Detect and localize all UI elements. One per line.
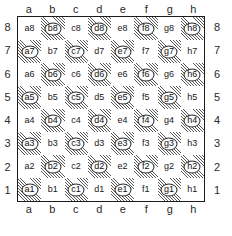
square-label-e5: e5 <box>118 93 128 102</box>
board-square-f4[interactable]: f4 <box>134 109 157 132</box>
square-label-f6: f6 <box>142 70 150 79</box>
board-square-g2[interactable]: g2 <box>158 155 181 178</box>
board-square-b8[interactable]: b8 <box>41 17 64 40</box>
square-label-b2: b2 <box>48 162 58 171</box>
board-square-a6[interactable]: a6 <box>18 63 41 86</box>
board-square-b5[interactable]: b5 <box>41 86 64 109</box>
board-square-e6[interactable]: e6 <box>111 63 134 86</box>
square-label-d3: d3 <box>94 139 104 148</box>
board-square-f8[interactable]: f8 <box>134 17 157 40</box>
board-square-f3[interactable]: f3 <box>134 132 157 155</box>
board-square-h4[interactable]: h4 <box>181 109 204 132</box>
square-label-d4: d4 <box>94 116 104 125</box>
board-square-g4[interactable]: g4 <box>158 109 181 132</box>
board-square-b7[interactable]: b7 <box>41 40 64 63</box>
board-square-f6[interactable]: f6 <box>134 63 157 86</box>
square-label-a6: a6 <box>25 70 35 79</box>
board-square-g3[interactable]: g3 <box>158 132 181 155</box>
caption-fragment <box>18 228 218 234</box>
file-label-top-d: d <box>88 4 112 15</box>
board-square-c5[interactable]: c5 <box>65 86 88 109</box>
board-square-b3[interactable]: b3 <box>41 132 64 155</box>
square-label-g7: g7 <box>164 47 174 56</box>
rank-label-left-4: 4 <box>1 115 17 126</box>
board-square-a2[interactable]: a2 <box>18 155 41 178</box>
board-square-h3[interactable]: h3 <box>181 132 204 155</box>
board-square-b1[interactable]: b1 <box>41 178 64 201</box>
board-square-h1[interactable]: h1 <box>181 178 204 201</box>
board-square-h8[interactable]: h8 <box>181 17 204 40</box>
board-square-c3[interactable]: c3 <box>65 132 88 155</box>
board-square-d3[interactable]: d3 <box>88 132 111 155</box>
board-square-c4[interactable]: c4 <box>65 109 88 132</box>
file-label-bottom-d: d <box>88 204 112 215</box>
board-square-h6[interactable]: h6 <box>181 63 204 86</box>
rank-labels-right: 87654321 <box>205 16 225 202</box>
board-square-e8[interactable]: e8 <box>111 17 134 40</box>
board-square-g8[interactable]: g8 <box>158 17 181 40</box>
board-square-h2[interactable]: h2 <box>181 155 204 178</box>
board-square-g6[interactable]: g6 <box>158 63 181 86</box>
rank-label-left-1: 1 <box>1 185 17 196</box>
board-square-d6[interactable]: d6 <box>88 63 111 86</box>
square-label-f3: f3 <box>142 139 150 148</box>
board-square-e4[interactable]: e4 <box>111 109 134 132</box>
board-square-e2[interactable]: e2 <box>111 155 134 178</box>
board-square-a3[interactable]: a3 <box>18 132 41 155</box>
board-square-a4[interactable]: a4 <box>18 109 41 132</box>
board-square-a8[interactable]: a8 <box>18 17 41 40</box>
board-square-h5[interactable]: h5 <box>181 86 204 109</box>
board-square-a7[interactable]: a7 <box>18 40 41 63</box>
square-label-h1: h1 <box>187 185 197 194</box>
file-label-top-b: b <box>41 4 65 15</box>
board-square-a1[interactable]: a1 <box>18 178 41 201</box>
square-label-d1: d1 <box>94 185 104 194</box>
square-label-d5: d5 <box>94 93 104 102</box>
board-square-b2[interactable]: b2 <box>41 155 64 178</box>
board-square-c8[interactable]: c8 <box>65 17 88 40</box>
square-label-b8: b8 <box>48 24 58 33</box>
board-square-e7[interactable]: e7 <box>111 40 134 63</box>
board-square-d4[interactable]: d4 <box>88 109 111 132</box>
board-square-e5[interactable]: e5 <box>111 86 134 109</box>
board-square-f5[interactable]: f5 <box>134 86 157 109</box>
board-square-e3[interactable]: e3 <box>111 132 134 155</box>
board-square-c6[interactable]: c6 <box>65 63 88 86</box>
board-square-c7[interactable]: c7 <box>65 40 88 63</box>
rank-label-left-7: 7 <box>1 45 17 56</box>
board-square-g7[interactable]: g7 <box>158 40 181 63</box>
board-square-g5[interactable]: g5 <box>158 86 181 109</box>
board-square-d5[interactable]: d5 <box>88 86 111 109</box>
board-square-g1[interactable]: g1 <box>158 178 181 201</box>
rank-label-right-1: 1 <box>205 185 225 196</box>
square-label-c4: c4 <box>71 116 81 125</box>
board-square-d1[interactable]: d1 <box>88 178 111 201</box>
board-square-b6[interactable]: b6 <box>41 63 64 86</box>
square-label-g8: g8 <box>164 24 174 33</box>
file-label-bottom-a: a <box>17 204 41 215</box>
square-label-a7: a7 <box>25 47 35 56</box>
board-square-b4[interactable]: b4 <box>41 109 64 132</box>
board-square-d8[interactable]: d8 <box>88 17 111 40</box>
rank-label-left-6: 6 <box>1 69 17 80</box>
square-label-e6: e6 <box>118 70 128 79</box>
square-label-h6: h6 <box>187 70 197 79</box>
board-square-d7[interactable]: d7 <box>88 40 111 63</box>
board-square-e1[interactable]: e1 <box>111 178 134 201</box>
board-square-f1[interactable]: f1 <box>134 178 157 201</box>
square-label-h4: h4 <box>187 116 197 125</box>
square-label-g3: g3 <box>164 139 174 148</box>
square-label-g6: g6 <box>164 70 174 79</box>
board-square-c1[interactable]: c1 <box>65 178 88 201</box>
square-label-d7: d7 <box>94 47 104 56</box>
board-square-d2[interactable]: d2 <box>88 155 111 178</box>
square-label-g5: g5 <box>164 93 174 102</box>
square-label-f5: f5 <box>142 93 150 102</box>
square-label-b5: b5 <box>48 93 58 102</box>
board-square-f7[interactable]: f7 <box>134 40 157 63</box>
board-square-a5[interactable]: a5 <box>18 86 41 109</box>
board-square-f2[interactable]: f2 <box>134 155 157 178</box>
board-square-c2[interactable]: c2 <box>65 155 88 178</box>
board-square-h7[interactable]: h7 <box>181 40 204 63</box>
square-label-b3: b3 <box>48 139 58 148</box>
